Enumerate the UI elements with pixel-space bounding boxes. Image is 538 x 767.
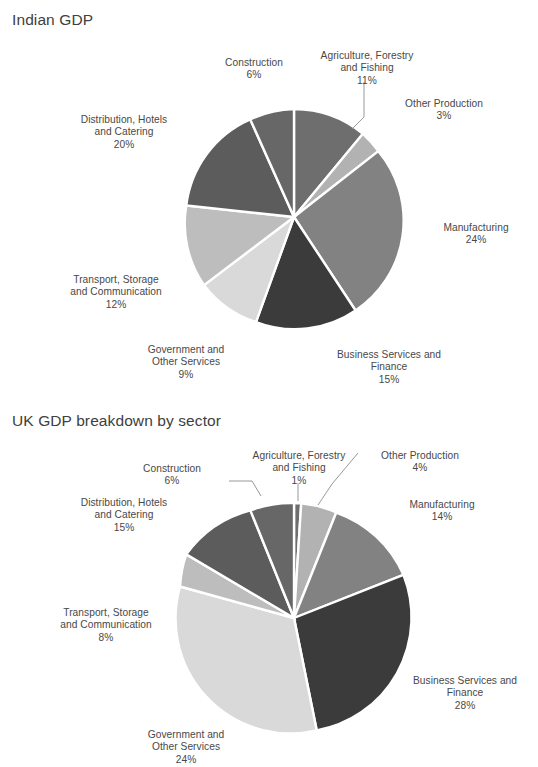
label-distribution: Distribution, Hotels and Catering 20% [62,101,186,164]
label-government-text: Government and Other Services [148,344,225,368]
label-other-production-percent: 4% [362,462,478,475]
label-business-services: Business Services and Finance 15% [324,336,454,399]
label-government-text: Government and Other Services [148,729,225,753]
label-agriculture: Agriculture, Forestry and Fishing 1% [240,437,358,500]
chart-indian-gdp: Indian GDP Construction 6% [0,0,538,400]
label-other-production: Other Production 4% [362,437,478,487]
label-transport-percent: 8% [42,632,170,645]
label-other-production-percent: 3% [386,110,502,123]
label-transport-text: Transport, Storage and Communication [60,607,151,631]
label-government-percent: 24% [130,754,242,767]
label-transport: Transport, Storage and Communication 12% [52,261,180,324]
label-transport-text: Transport, Storage and Communication [70,274,161,298]
label-business-services-text: Business Services and Finance [413,675,517,699]
label-government: Government and Other Services 9% [130,331,242,394]
label-manufacturing: Manufacturing 14% [386,486,498,536]
label-manufacturing-percent: 14% [386,511,498,524]
label-business-services-percent: 15% [324,374,454,387]
label-manufacturing-text: Manufacturing [409,499,474,510]
label-other-production: Other Production 3% [386,85,502,135]
chart-uk-gdp: UK GDP breakdown by sector [0,400,538,767]
label-construction-text: Construction [225,57,283,68]
label-manufacturing-percent: 24% [420,234,532,247]
label-government: Government and Other Services 24% [130,716,242,767]
label-construction-text: Construction [143,463,201,474]
label-business-services-percent: 28% [400,700,530,713]
label-transport: Transport, Storage and Communication 8% [42,594,170,657]
label-distribution-percent: 15% [62,522,186,535]
label-other-production-text: Other Production [405,98,483,109]
label-transport-percent: 12% [52,299,180,312]
label-construction: Construction 6% [198,44,310,94]
label-business-services-text: Business Services and Finance [337,349,441,373]
label-distribution: Distribution, Hotels and Catering 15% [62,484,186,547]
label-distribution-percent: 20% [62,139,186,152]
label-agriculture-percent: 1% [240,475,358,488]
label-agriculture-text: Agriculture, Forestry and Fishing [253,450,346,474]
label-manufacturing: Manufacturing 24% [420,209,532,259]
label-business-services: Business Services and Finance 28% [400,662,530,725]
pie-slices-uk-gdp [176,503,412,734]
label-agriculture-text: Agriculture, Forestry and Fishing [321,50,414,74]
label-distribution-text: Distribution, Hotels and Catering [81,114,168,138]
label-construction-percent: 6% [198,69,310,82]
label-government-percent: 9% [130,369,242,382]
label-manufacturing-text: Manufacturing [443,222,508,233]
pie-slices-indian-gdp [185,109,404,329]
label-distribution-text: Distribution, Hotels and Catering [81,497,168,521]
label-other-production-text: Other Production [381,450,459,461]
